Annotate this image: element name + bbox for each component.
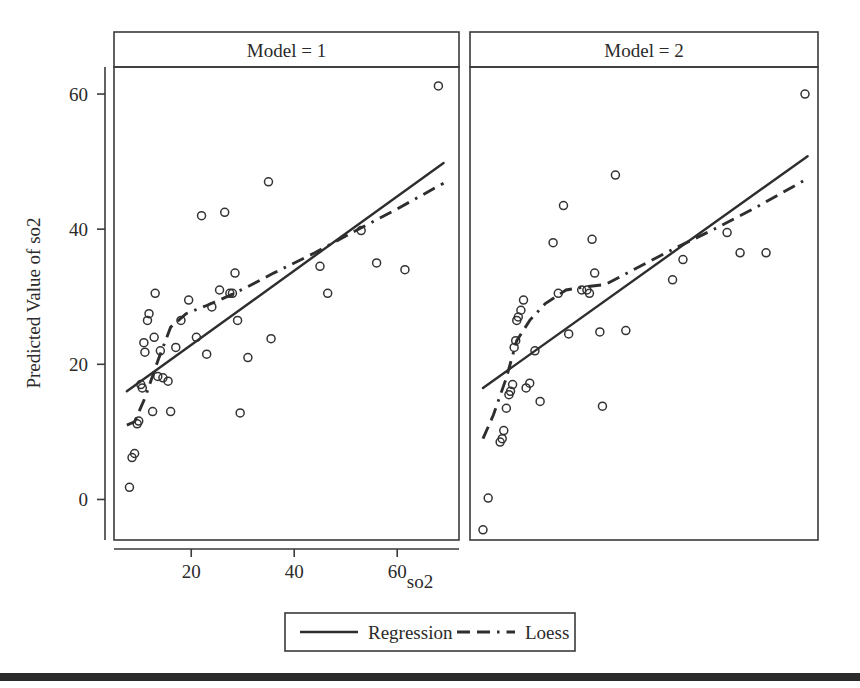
y-tick-label: 20 xyxy=(69,354,88,375)
legend-label-loess: Loess xyxy=(525,622,569,643)
x-tick-label: 20 xyxy=(182,561,201,582)
y-tick-label: 40 xyxy=(69,219,88,240)
legend-label-regression: Regression xyxy=(368,622,453,643)
x-tick-label: 60 xyxy=(388,561,407,582)
y-tick-label: 0 xyxy=(79,489,89,510)
x-tick-label: 40 xyxy=(285,561,304,582)
footer-bar xyxy=(0,673,860,681)
legend: Regression Loess xyxy=(285,613,575,651)
panel-1-strip-label: Model = 1 xyxy=(247,40,326,61)
y-tick-label: 60 xyxy=(69,84,88,105)
x-axis-title: so2 xyxy=(407,571,433,592)
figure-container: Model = 1 Model = 2 0204060 Predicted Va… xyxy=(0,0,860,688)
y-axis-title: Predicted Value of so2 xyxy=(23,217,44,388)
chart-svg: Model = 1 Model = 2 0204060 Predicted Va… xyxy=(0,0,860,688)
panel-2-strip-label: Model = 2 xyxy=(604,40,683,61)
